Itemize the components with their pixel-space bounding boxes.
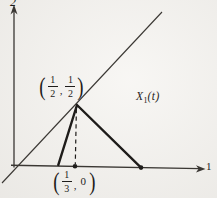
denominator: 2	[68, 87, 73, 99]
function-label: X1(t)	[136, 90, 160, 106]
numerator: 1	[65, 75, 75, 88]
denominator: 3	[64, 182, 69, 194]
fraction-x-coordinate: 1 3	[62, 170, 72, 194]
y-axis-label: 2	[10, 0, 16, 8]
comma-separator: ,	[74, 180, 77, 191]
open-paren: (	[53, 169, 59, 195]
numerator: 1	[48, 75, 58, 88]
right-endpoint-dot	[139, 165, 144, 170]
close-paren: )	[89, 169, 95, 195]
denominator: 2	[50, 87, 55, 99]
function-variable: X	[136, 90, 144, 102]
figure-canvas: 2 1 ( 1 2 , 1 2 ) X1(t) ( 1 3 , 0 )	[0, 0, 217, 198]
open-paren: (	[39, 74, 45, 100]
base-point-label: ( 1 3 , 0 )	[52, 167, 97, 196]
x-axis-line	[11, 165, 200, 168]
plot-lines	[0, 0, 217, 198]
fraction-x-coordinate: 1 2	[48, 75, 58, 99]
numerator: 1	[62, 170, 72, 183]
fraction-y-coordinate: 1 2	[65, 75, 75, 99]
comma-separator: ,	[60, 85, 63, 96]
x-axis-label: 1	[206, 161, 212, 172]
triangle-pulse	[58, 105, 141, 168]
function-argument: (t)	[148, 90, 160, 102]
close-paren: )	[78, 74, 84, 100]
peak-point-label: ( 1 2 , 1 2 )	[38, 71, 85, 102]
dashed-drop-line	[75, 109, 76, 164]
y-value: 0	[80, 176, 86, 187]
